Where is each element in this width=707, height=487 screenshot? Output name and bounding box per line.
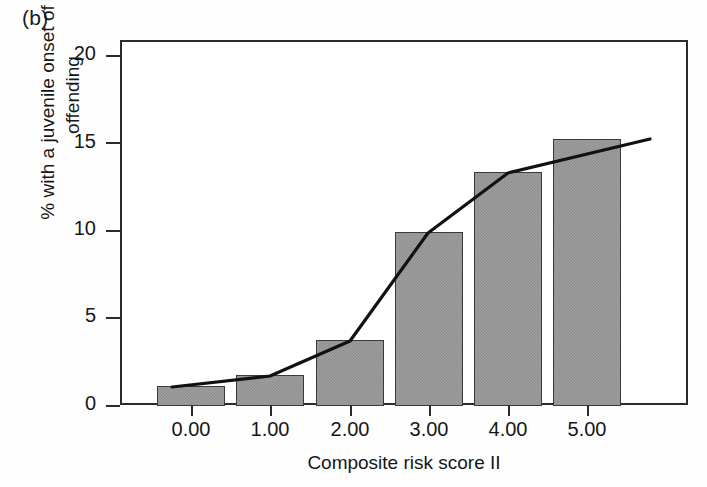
y-tick-mark-10 — [106, 230, 120, 232]
x-tick-label-2: 2.00 — [310, 418, 390, 441]
x-tick-mark-1 — [270, 405, 272, 416]
figure-panel-b: (b) % with a juvenile onset of sex offen… — [0, 0, 707, 487]
x-tick-mark-2 — [350, 405, 352, 416]
x-tick-mark-3 — [429, 405, 431, 416]
bar-2 — [316, 340, 384, 406]
y-tick-label-0: 0 — [0, 392, 96, 415]
y-axis-tick-labels: 0 5 10 15 20 — [0, 0, 100, 487]
y-tick-mark-15 — [106, 142, 120, 144]
bar-0 — [157, 386, 225, 406]
x-tick-label-4: 4.00 — [468, 418, 548, 441]
x-tick-mark-5 — [587, 405, 589, 416]
x-axis-title: Composite risk score II — [120, 452, 688, 474]
y-tick-mark-5 — [106, 317, 120, 319]
x-tick-mark-0 — [191, 405, 193, 416]
y-tick-label-20: 20 — [0, 42, 96, 65]
x-tick-label-0: 0.00 — [151, 418, 231, 441]
bar-1 — [236, 375, 304, 406]
x-tick-mark-4 — [508, 405, 510, 416]
y-tick-label-15: 15 — [0, 130, 96, 153]
y-tick-label-10: 10 — [0, 217, 96, 240]
y-tick-mark-20 — [106, 55, 120, 57]
y-tick-label-5: 5 — [0, 304, 96, 327]
bar-5 — [553, 139, 621, 406]
x-tick-label-1: 1.00 — [230, 418, 310, 441]
x-tick-label-3: 3.00 — [389, 418, 469, 441]
y-tick-mark-0 — [106, 405, 120, 407]
bar-3 — [395, 232, 463, 406]
bar-4 — [474, 172, 542, 406]
x-tick-label-5: 5.00 — [547, 418, 627, 441]
